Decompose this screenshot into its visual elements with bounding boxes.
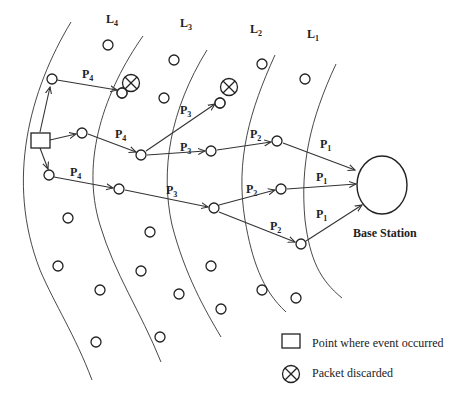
path-label: P1 xyxy=(316,207,327,223)
path-label: P4 xyxy=(115,127,126,143)
edge-c-n xyxy=(54,177,113,188)
sensor-node xyxy=(216,304,226,314)
legend: Point where event occurred Packet discar… xyxy=(282,334,444,383)
sensor-node xyxy=(159,93,169,103)
path-label: P1 xyxy=(316,170,327,186)
sensor-node xyxy=(95,285,105,295)
edge-q-t xyxy=(219,212,295,242)
level-label-l4: L4 xyxy=(106,12,118,28)
sensor-node xyxy=(206,146,216,156)
path-label: P2 xyxy=(246,182,257,198)
edge-a-d1 xyxy=(57,80,117,90)
level-arcs xyxy=(23,22,342,380)
sensor-node xyxy=(174,289,184,299)
edges xyxy=(40,80,362,242)
path-label: P1 xyxy=(320,137,331,153)
sensor-node xyxy=(296,239,306,249)
sensor-node xyxy=(47,74,57,84)
edge-event-a xyxy=(40,87,50,132)
sensor-node xyxy=(136,266,146,276)
edge-p-r xyxy=(217,142,271,150)
sensor-node xyxy=(91,337,101,347)
path-label: P4 xyxy=(70,165,81,181)
discard-marker-1 xyxy=(117,75,140,99)
sensor-node xyxy=(291,293,301,303)
legend-square-icon xyxy=(282,334,300,348)
sensor-node xyxy=(145,227,155,237)
sensor-node xyxy=(103,40,113,50)
legend-event-label: Point where event occurred xyxy=(312,336,444,350)
edge-m-p xyxy=(147,151,205,155)
base-station-label: Base Station xyxy=(353,226,417,240)
path-nodes xyxy=(44,74,306,249)
event-point-square xyxy=(31,133,50,148)
edge-event-c xyxy=(40,148,48,169)
edge-event-b xyxy=(50,134,76,140)
path-label: P3 xyxy=(180,103,191,119)
path-label: P2 xyxy=(270,219,281,235)
network-diagram: L4 L3 L2 L1 P4 P4 P4 P3 P3 P3 P2 P2 P2 P… xyxy=(0,0,461,401)
sensor-node xyxy=(169,55,179,65)
sensor-node xyxy=(63,213,73,223)
sensor-node xyxy=(155,332,165,342)
path-label: P3 xyxy=(166,183,177,199)
edge-s-bs xyxy=(287,184,356,189)
sensor-node xyxy=(257,59,267,69)
level-label-l1: L1 xyxy=(307,27,319,43)
level-label-l3: L3 xyxy=(180,16,192,32)
path-label: P2 xyxy=(250,127,261,143)
path-label: P4 xyxy=(82,67,93,83)
sensor-node xyxy=(272,136,282,146)
discard-marker-2 xyxy=(215,79,238,109)
path-label: P3 xyxy=(180,140,191,156)
base-station-circle xyxy=(357,156,407,214)
level-label-l2: L2 xyxy=(250,22,262,38)
sensor-node xyxy=(206,261,216,271)
sensor-node xyxy=(114,184,124,194)
level-labels: L4 L3 L2 L1 xyxy=(106,12,319,43)
sensor-node xyxy=(77,128,87,138)
sensor-node xyxy=(44,170,54,180)
sensor-node xyxy=(257,285,267,295)
sensor-node xyxy=(300,74,310,84)
sensor-node xyxy=(276,184,286,194)
sensor-node xyxy=(209,203,219,213)
legend-discard-label: Packet discarded xyxy=(312,366,393,380)
sensor-node xyxy=(136,150,146,160)
edge-r-bs xyxy=(283,143,355,170)
sensor-node xyxy=(53,261,63,271)
